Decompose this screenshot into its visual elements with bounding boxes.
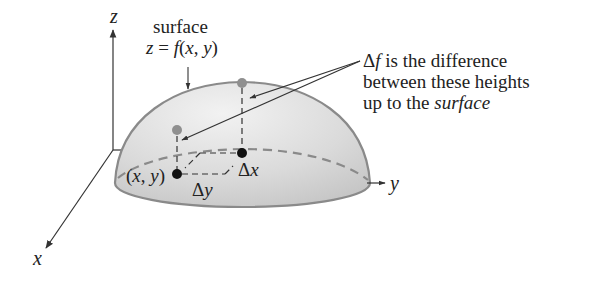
base-point-xy: [172, 169, 182, 179]
delta-f-annotation-line3: up to the surface: [363, 92, 490, 113]
surface-point-left: [172, 125, 182, 135]
x-axis: [46, 150, 113, 248]
surface-point-top: [237, 78, 247, 88]
surface-equation: z = f(x, y): [145, 37, 218, 59]
delta-x-label: Δx: [238, 159, 259, 180]
surface-diagram: z y x surface z = f(x, y) Δf is the diff…: [0, 0, 601, 284]
z-axis-label: z: [109, 5, 118, 27]
base-point-right: [237, 148, 247, 158]
y-axis-label: y: [388, 172, 399, 195]
x-axis-label: x: [32, 247, 42, 269]
delta-f-annotation-line1: Δf is the difference: [363, 50, 507, 71]
delta-f-annotation-line2: between these heights: [363, 71, 530, 92]
surface-label: surface: [153, 16, 208, 37]
delta-y-label: Δy: [192, 179, 213, 200]
point-xy-label: (x, y): [126, 165, 165, 187]
